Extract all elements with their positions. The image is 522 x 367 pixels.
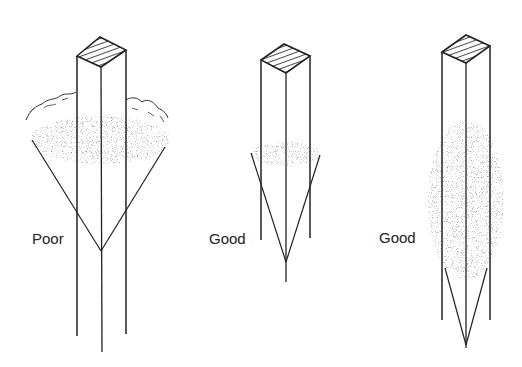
diagram-canvas xyxy=(0,0,522,367)
fill-zone xyxy=(30,116,170,164)
label-good-2: Good xyxy=(379,229,416,246)
label-poor: Poor xyxy=(32,230,64,247)
ground-edge-left xyxy=(26,92,76,120)
post-top-hatched xyxy=(442,35,490,63)
label-good-1: Good xyxy=(209,230,246,247)
post-poor xyxy=(26,37,170,352)
post-top-hatched xyxy=(77,37,126,67)
post-good-2 xyxy=(428,35,504,348)
post-top-hatched xyxy=(261,44,310,73)
post-good-1 xyxy=(251,44,320,282)
